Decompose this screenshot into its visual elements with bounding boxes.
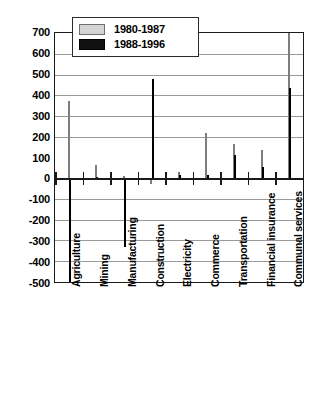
category-group [83,33,111,282]
x-axis-category-label: Mining [99,254,110,287]
x-axis-category-label: Financial insurance [266,193,277,287]
y-tick-label: 600 [8,47,50,58]
y-tick-label: -300 [8,236,50,247]
y-tick-label: -400 [8,257,50,268]
legend-label: 1988-1996 [114,39,165,50]
x-axis-category-label: Construction [155,224,166,287]
y-tick-label: 0 [8,173,50,184]
x-axis-category-label: Transportation [238,216,249,287]
bar [262,167,264,178]
y-axis-tick-labels: 700 600 500 400 300 200 100 0 -100 -200 … [8,32,50,283]
y-tick-label: -500 [8,278,50,289]
legend-label: 1980-1987 [114,24,165,35]
x-axis-category-label: Agriculture [71,233,82,287]
chart-legend: 1980-1987 1988-1996 [72,17,199,57]
bar [152,79,154,179]
gray-swatch-icon [79,24,105,35]
bar [205,133,207,179]
bar-chart-figure: 700 600 500 400 300 200 100 0 -100 -200 … [0,0,314,397]
y-tick-label: 200 [8,131,50,142]
bar [289,88,291,178]
x-axis-category-label: Commerce [210,234,221,287]
x-axis-category-label: Electricity [182,239,193,287]
x-axis-category-labels: AgricultureMiningManufacturingConstructi… [54,283,304,395]
y-tick-label: 300 [8,110,50,121]
y-tick-label: 400 [8,89,50,100]
black-swatch-icon [79,39,105,50]
bar [234,155,236,178]
legend-entry: 1988-1996 [79,37,192,52]
bar [68,101,70,178]
legend-entry: 1980-1987 [79,22,192,37]
y-tick-label: 100 [8,152,50,163]
y-tick-label: 500 [8,68,50,79]
y-tick-label: 700 [8,27,50,38]
y-tick-label: -100 [8,194,50,205]
y-tick-label: -200 [8,215,50,226]
zero-axis-line [55,178,303,180]
x-axis-category-label: Communal services [293,191,304,287]
x-axis-category-label: Manufacturing [127,217,138,287]
